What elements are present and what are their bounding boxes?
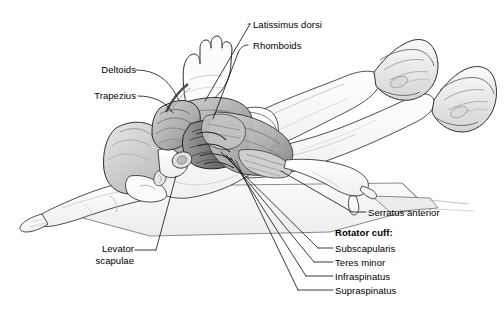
- anatomy-figure: Deltoids Trapezius Levator scapulae Lati…: [0, 0, 504, 315]
- label-infraspinatus: Infraspinatus: [335, 271, 390, 282]
- shoulder-musculature: [152, 84, 293, 178]
- anatomy-illustration: [0, 0, 504, 315]
- label-trapezius: Trapezius: [76, 90, 136, 101]
- label-rhomboids: Rhomboids: [253, 40, 302, 51]
- leader-rhomboids-hook: [238, 45, 248, 53]
- label-rotator-cuff-heading: Rotator cuff:: [335, 227, 393, 238]
- label-levator-scapulae: Levator scapulae: [72, 243, 134, 266]
- label-deltoids: Deltoids: [84, 64, 136, 75]
- label-serratus-anterior: Serratus anterior: [368, 207, 440, 218]
- label-subscapularis: Subscapularis: [335, 243, 395, 254]
- label-supraspinatus: Supraspinatus: [335, 285, 396, 296]
- label-teres-minor: Teres minor: [335, 257, 385, 268]
- label-latissimus-dorsi: Latissimus dorsi: [253, 19, 322, 30]
